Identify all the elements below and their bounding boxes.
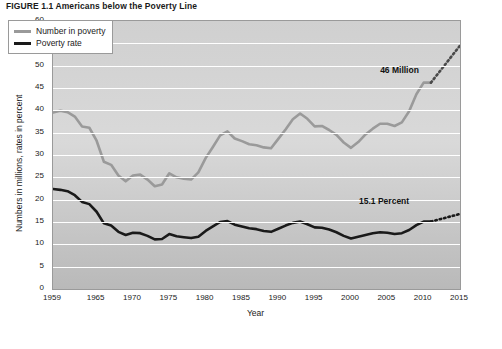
x-axis-label: Year: [216, 308, 296, 318]
y-tick-label: 10: [28, 238, 44, 247]
legend-label-poverty-rate: Poverty rate: [36, 38, 82, 48]
legend: Number in poverty Poverty rate: [8, 20, 113, 54]
series-line-number-in-poverty: [53, 83, 431, 187]
y-tick-label: 30: [28, 149, 44, 158]
y-tick-label: 45: [28, 82, 44, 91]
y-tick-label: 35: [28, 127, 44, 136]
x-tick-label: 1959: [37, 293, 67, 302]
legend-swatch-poverty-rate: [14, 42, 31, 45]
x-tick-label: 2015: [444, 293, 474, 302]
gridline: [53, 244, 460, 245]
x-tick-label: 1970: [117, 293, 147, 302]
gridline: [53, 267, 460, 268]
annotation-46-million: 46 Million: [380, 65, 419, 75]
x-tick-label: 1985: [226, 293, 256, 302]
projection-line-poverty-rate: [431, 214, 460, 222]
gridline: [53, 110, 460, 111]
gridline: [53, 43, 460, 44]
y-tick-label: 50: [28, 60, 44, 69]
x-tick-label: 1965: [81, 293, 111, 302]
y-tick-label: 5: [28, 261, 44, 270]
gridline: [53, 133, 460, 134]
y-tick-label: 25: [28, 171, 44, 180]
x-tick-label: 1990: [262, 293, 292, 302]
figure-title: FIGURE 1.1 Americans below the Poverty L…: [6, 1, 197, 11]
gridline: [53, 155, 460, 156]
y-axis-label: Numbers in millions, rates in percent: [14, 95, 24, 232]
gridline: [53, 222, 460, 223]
x-tick-label: 2000: [335, 293, 365, 302]
y-tick-label: 15: [28, 216, 44, 225]
legend-item-number-in-poverty: Number in poverty: [14, 25, 105, 37]
plot-area: [52, 20, 461, 290]
poverty-line-chart: 051015202530354045505560 195919651970197…: [0, 14, 502, 349]
y-tick-label: 0: [28, 283, 44, 292]
legend-item-poverty-rate: Poverty rate: [14, 37, 105, 49]
x-tick-label: 2005: [371, 293, 401, 302]
y-tick-label: 40: [28, 104, 44, 113]
legend-swatch-number-in-poverty: [14, 30, 31, 33]
gridline: [53, 177, 460, 178]
x-tick-label: 2010: [408, 293, 438, 302]
x-tick-label: 1995: [299, 293, 329, 302]
legend-label-number-in-poverty: Number in poverty: [36, 26, 105, 36]
y-tick-label: 20: [28, 194, 44, 203]
x-tick-label: 1975: [153, 293, 183, 302]
x-tick-label: 1980: [190, 293, 220, 302]
projection-line-number-in-poverty: [431, 46, 460, 83]
gridline: [53, 88, 460, 89]
annotation-15-1-percent: 15.1 Percent: [359, 196, 409, 206]
